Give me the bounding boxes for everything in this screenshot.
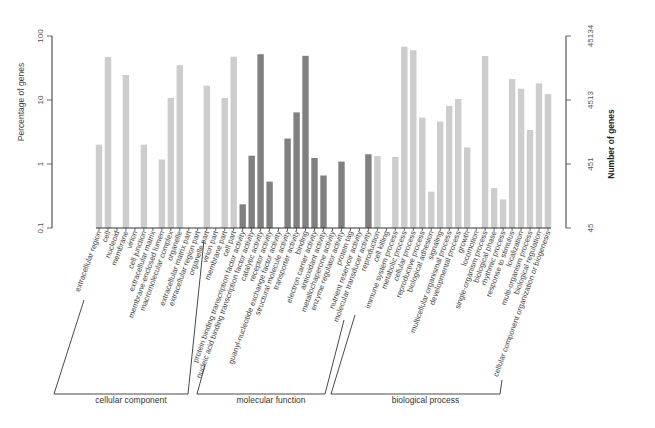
bar [266, 182, 272, 228]
bar [338, 162, 344, 228]
left-tick-label: 1 [36, 161, 45, 166]
bar [392, 157, 398, 228]
category-label: extracellular region [73, 230, 103, 293]
bar [311, 158, 317, 228]
bar [491, 188, 497, 228]
bar [500, 199, 506, 228]
bar [96, 145, 102, 228]
x-axis-category-labels: extracellular regioncellnucleoidmembrane… [73, 228, 552, 379]
bar [419, 118, 425, 228]
bar [204, 86, 210, 228]
left-axis-title: Percentage of genes [16, 63, 26, 141]
bar [249, 156, 255, 228]
right-tick-label: 451 [586, 157, 595, 171]
bar [320, 176, 326, 229]
bar [446, 106, 452, 228]
bar [401, 47, 407, 228]
bar [545, 94, 551, 228]
bar [437, 122, 443, 228]
bar [536, 83, 542, 228]
left-tick-label: 100 [36, 29, 45, 43]
bar [284, 139, 290, 229]
bar [527, 130, 533, 228]
bar [141, 145, 147, 228]
go-annotation-bar-chart: 0.1110100Percentage of genes 45451451345… [0, 0, 655, 428]
bar [168, 98, 174, 228]
bar [518, 89, 524, 228]
right-tick-label: 4513 [586, 91, 595, 109]
bar [257, 54, 263, 228]
bar [365, 154, 371, 228]
bar [428, 192, 434, 228]
group-label: molecular function [237, 395, 306, 405]
bar [464, 147, 470, 228]
bar [410, 50, 416, 228]
group-label: cellular component [95, 395, 167, 405]
bars [96, 47, 551, 228]
group-label: biological process [392, 395, 460, 405]
bar [159, 159, 165, 228]
bar [222, 98, 228, 228]
bar [123, 75, 129, 228]
bar [509, 79, 515, 228]
right-y-axis: 45451451345134Number of genes [566, 24, 616, 232]
bar [177, 65, 183, 228]
bar [482, 56, 488, 228]
bar [293, 112, 299, 228]
left-y-axis: 0.1110100Percentage of genes [16, 29, 52, 234]
bar [231, 57, 237, 228]
bar [105, 57, 111, 228]
left-tick-label: 0.1 [36, 222, 45, 234]
right-axis-title: Number of genes [606, 109, 616, 179]
bar [374, 156, 380, 228]
right-tick-label: 45134 [586, 24, 595, 47]
left-tick-label: 10 [36, 95, 45, 104]
right-tick-label: 45 [586, 223, 595, 232]
bar [302, 56, 308, 228]
bar [240, 204, 246, 228]
bar [455, 99, 461, 228]
